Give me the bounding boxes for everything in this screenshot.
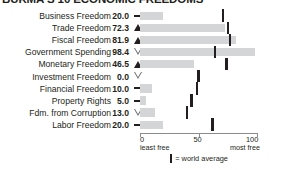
freedom-score: 20.0: [103, 119, 129, 131]
score-bar: [140, 121, 163, 129]
world-average-tick: [222, 9, 224, 22]
score-bar: [140, 60, 194, 68]
world-average-tick: [229, 34, 231, 47]
axis-sub-label: most free: [230, 144, 260, 152]
bar-plot-area: [140, 10, 257, 133]
page-title: BURMA'S 10 ECONOMIC FREEDOMS: [2, 0, 203, 5]
world-average-tick: [227, 22, 229, 35]
freedom-label: Labor Freedom: [1, 119, 111, 131]
axis-tick-label: 50: [194, 136, 202, 144]
score-bar: [140, 24, 225, 32]
score-bar: [140, 12, 163, 20]
freedom-score: 10.0: [103, 83, 129, 95]
freedom-score: 98.4: [103, 46, 129, 58]
world-average-tick: [196, 82, 198, 95]
score-bar: [140, 36, 236, 44]
freedom-label: Investment Freedom: [1, 71, 111, 83]
freedom-score: 13.0: [103, 107, 129, 119]
freedom-label: Financial Freedom: [1, 83, 111, 95]
freedom-score: 5.0: [103, 95, 129, 107]
freedom-label: Business Freedom: [1, 10, 111, 22]
score-bar: [140, 84, 152, 92]
freedom-label: Fiscal Freedom: [1, 34, 111, 46]
world-average-tick: [214, 46, 216, 59]
legend: = world average: [170, 154, 228, 163]
freedom-label: Property Rights: [1, 95, 111, 107]
world-average-tick: [211, 118, 213, 131]
score-bar: [140, 48, 255, 56]
score-bar: [140, 96, 146, 104]
world-average-tick: [197, 70, 199, 83]
world-average-tick: [186, 106, 188, 119]
world-average-tick-icon: [170, 154, 172, 163]
world-average-tick: [190, 94, 192, 107]
economic-freedoms-chart: BURMA'S 10 ECONOMIC FREEDOMS Business Fr…: [0, 0, 281, 170]
axis-sub-label: least free: [140, 144, 170, 152]
freedom-score: 46.5: [103, 58, 129, 70]
freedom-label: Fdm. from Corruption: [1, 107, 111, 119]
score-bar: [140, 108, 155, 116]
world-average-tick: [225, 58, 227, 71]
freedom-label: Government Spending: [1, 46, 111, 58]
freedom-label: Monetary Freedom: [1, 58, 111, 70]
freedom-label: Trade Freedom: [1, 22, 111, 34]
freedom-score: 20.0: [103, 10, 129, 22]
freedom-score: 72.3: [103, 22, 129, 34]
freedom-score: 81.9: [103, 34, 129, 46]
legend-label: = world average: [175, 154, 228, 163]
freedom-score: 0.0: [103, 71, 129, 83]
